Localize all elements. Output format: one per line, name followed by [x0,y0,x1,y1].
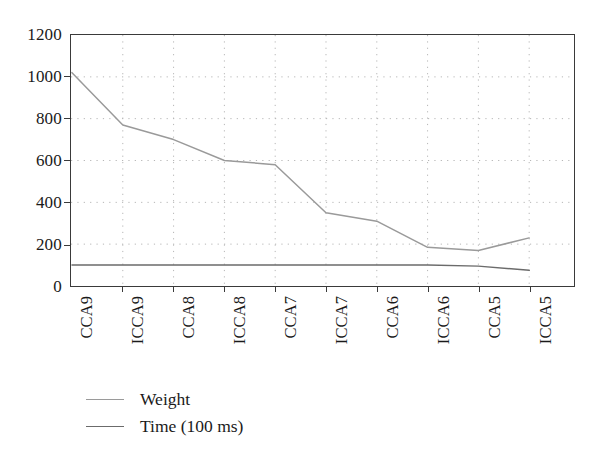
x-tick-mark-6 [428,287,429,292]
y-tick-label-800: 800 [16,110,62,127]
plot-area [70,34,575,287]
y-tick-label-200: 200 [16,236,62,253]
x-tick-label-cca5: CCA5 [486,296,503,339]
x-tick-label-icca8: ICCA8 [231,296,248,344]
series-lines [71,35,574,286]
y-axis-label-group: 1200 1000 800 600 400 200 0 [10,34,62,287]
legend-label-weight: Weight [140,390,190,409]
legend-swatch-weight [86,399,124,400]
x-tick-mark-7 [479,287,480,292]
x-tick-label-cca9: CCA9 [78,296,95,339]
x-tick-mark-8 [530,287,531,292]
x-tick-label-cca6: CCA6 [384,296,401,339]
y-tick-label-400: 400 [16,194,62,211]
chart-figure: 1200 1000 800 600 400 200 0 [0,0,598,468]
legend-swatch-time [86,426,124,427]
chart-legend: Weight Time (100 ms) [86,386,243,440]
y-tick-label-0: 0 [16,278,62,295]
legend-item-time: Time (100 ms) [86,413,243,440]
x-tick-mark-0 [122,287,123,292]
series-line-time [72,265,529,270]
x-tick-label-cca7: CCA7 [282,296,299,339]
x-tick-mark-3 [275,287,276,292]
series-line-weight [72,73,529,251]
y-tick-label-1000: 1000 [16,68,62,85]
x-tick-label-icca9: ICCA9 [129,296,146,344]
x-tick-mark-5 [377,287,378,292]
x-tick-label-icca6: ICCA6 [435,296,452,344]
x-tick-mark-1 [173,287,174,292]
x-tick-mark-2 [224,287,225,292]
y-tick-label-1200: 1200 [16,26,62,43]
legend-label-time: Time (100 ms) [140,417,243,436]
y-tick-label-600: 600 [16,152,62,169]
x-tick-label-icca5: ICCA5 [537,296,554,344]
x-tick-mark-4 [326,287,327,292]
x-tick-label-cca8: CCA8 [180,296,197,339]
x-tick-label-icca7: ICCA7 [333,296,350,344]
legend-item-weight: Weight [86,386,243,413]
